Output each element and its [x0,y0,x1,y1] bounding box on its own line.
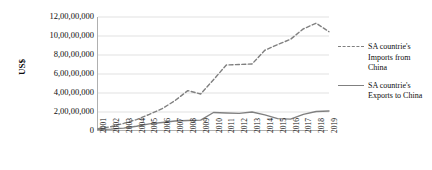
y-axis-tick-labels: 12,00,00,00010,00,00,0008,00,00,0006,00,… [16,0,94,170]
y-tick-label: 4,00,00,000 [54,88,94,97]
x-tick-label: 2005 [151,118,159,133]
y-tick-label: 8,00,00,000 [54,50,94,59]
x-tick-label: 2003 [126,118,134,133]
x-tick-label: 2014 [267,118,275,133]
x-tick-label: 2001 [100,118,108,133]
x-tick-label: 2010 [216,118,224,133]
x-tick-label: 2018 [318,118,326,133]
x-tick-label: 2006 [164,118,172,133]
y-tick-label: 2,00,00,000 [54,107,94,116]
x-tick-label: 2019 [331,118,339,133]
x-tick-label: 2013 [254,118,262,133]
x-axis-tick-labels: 2001200220032004200520062007200820092010… [97,131,328,170]
plot-area [97,17,328,131]
y-tick-label: 12,00,00,000 [49,12,94,21]
solid-line-marker [338,85,364,86]
y-tick-label: 10,00,00,000 [49,31,94,40]
y-tick-label: 0 [90,126,94,135]
x-tick-label: 2004 [139,118,147,133]
y-tick-label: 6,00,00,000 [54,69,94,78]
x-tick-label: 2009 [203,118,211,133]
series-lines [98,17,329,131]
trade-line-chart: US$ 12,00,00,00010,00,00,0008,00,00,0006… [0,0,432,170]
dashed-line-marker [338,46,364,47]
legend-label: SA countrie's Exports to China [368,81,430,102]
x-tick-label: 2007 [177,118,185,133]
x-tick-label: 2016 [293,118,301,133]
x-tick-label: 2017 [305,118,313,133]
x-tick-label: 2002 [113,118,121,133]
legend-entry[interactable]: SA countrie's Imports from China [338,42,430,74]
legend-entry[interactable]: SA countrie's Exports to China [338,81,430,102]
chart-legend: SA countrie's Imports from ChinaSA count… [338,42,430,109]
x-tick-label: 2015 [280,118,288,133]
x-tick-label: 2008 [190,118,198,133]
x-tick-label: 2012 [241,118,249,133]
legend-label: SA countrie's Imports from China [368,42,430,74]
x-tick-label: 2011 [228,118,236,133]
